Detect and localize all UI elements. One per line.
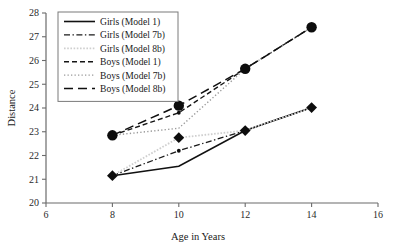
y-tick-label: 26 [29,55,39,66]
data-point-diamond [173,132,184,143]
data-point-diamond [306,102,317,113]
data-point-diamond [240,125,251,136]
legend: Girls (Model 1)Girls (Model 7b)Girls (Mo… [58,12,178,101]
data-point-dot [177,111,181,115]
y-tick-label: 22 [29,150,39,161]
legend-label-0: Girls (Model 1) [100,16,160,28]
line-chart: 6810121416 202122232425262728 Age in Yea… [0,0,397,248]
legend-label-2: Girls (Model 8b) [100,43,165,55]
x-axis-ticks: 6810121416 [44,203,384,220]
data-point-circle [107,130,117,140]
legend-label-5: Boys (Model 8b) [100,83,166,95]
y-tick-label: 27 [29,31,39,42]
y-axis-title: Distance [6,89,17,126]
data-point-circle [240,64,250,74]
data-point-circle [174,100,184,110]
legend-label-3: Boys (Model 1) [100,56,161,68]
legend-label-4: Boys (Model 7b) [100,70,166,82]
x-tick-label: 14 [307,209,317,220]
x-tick-label: 6 [44,209,49,220]
y-tick-label: 28 [29,7,39,18]
y-tick-label: 20 [29,197,39,208]
y-axis-ticks: 202122232425262728 [29,7,46,208]
legend-label-1: Girls (Model 7b) [100,29,165,41]
y-tick-label: 23 [29,126,39,137]
x-tick-label: 8 [110,209,115,220]
x-axis-title: Age in Years [171,231,225,242]
x-tick-label: 16 [373,209,383,220]
data-point-circle [306,22,316,32]
data-point-diamond [107,170,118,181]
y-tick-label: 21 [29,174,39,185]
data-point-dot [177,149,181,153]
x-tick-label: 10 [174,209,184,220]
x-tick-label: 12 [240,209,250,220]
plot-area: 6810121416 202122232425262728 Age in Yea… [0,0,397,248]
series-line-1 [112,108,311,176]
y-tick-label: 24 [29,102,39,113]
y-tick-label: 25 [29,79,39,90]
